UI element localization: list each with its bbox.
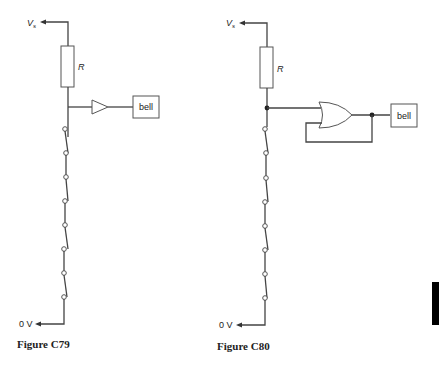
figure-c79: Vs R bell: [17, 18, 159, 350]
switch-contact: [63, 223, 68, 228]
switch-contact: [62, 271, 67, 276]
supply-label: Vs: [27, 18, 36, 29]
resistor: [61, 46, 74, 87]
switch-contact: [63, 127, 68, 132]
figure-c80: Vs R bell: [217, 18, 417, 352]
ground-arrow-icon: [236, 323, 242, 328]
figure-caption: Figure C79: [17, 338, 70, 350]
bell-label: bell: [139, 102, 153, 112]
switch-blade: [266, 180, 268, 202]
switch-contact: [64, 175, 69, 180]
switch-blade: [64, 275, 67, 297]
buffer-gate-icon: [92, 100, 108, 114]
ground-arrow-icon: [35, 322, 41, 327]
switch-blade: [265, 228, 268, 250]
switch-contact: [63, 199, 68, 204]
switch-chain: [263, 127, 269, 301]
switch-contact: [263, 224, 268, 229]
ground-wire: [38, 299, 64, 324]
switch-contact: [263, 200, 268, 205]
diagram-canvas: Vs R bell: [0, 0, 439, 367]
switch-contact: [62, 247, 67, 252]
resistor: [260, 47, 273, 88]
supply-label: Vs: [226, 18, 235, 29]
supply-wire: [43, 22, 68, 46]
resistor-label: R: [277, 64, 284, 74]
switch-blade: [265, 276, 267, 298]
switch-blade: [265, 131, 268, 153]
switch-blade: [65, 227, 68, 249]
switch-contact: [263, 248, 268, 253]
ground-wire: [239, 300, 265, 325]
switch-contact: [62, 295, 67, 300]
supply-wire: [242, 23, 267, 47]
switch-contact: [264, 176, 269, 181]
ground-label: 0 V: [219, 320, 233, 330]
figure-caption: Figure C80: [217, 340, 270, 352]
switch-contact: [263, 127, 268, 132]
supply-arrow-icon: [40, 20, 46, 25]
switch-chain: [62, 127, 69, 300]
switch-contact: [264, 151, 269, 156]
ground-label: 0 V: [19, 319, 33, 329]
switch-contact: [263, 272, 268, 277]
switch-blade: [66, 179, 68, 201]
switch-contact: [263, 296, 268, 301]
page-edge-tab: [432, 282, 439, 325]
bell-label: bell: [397, 111, 411, 121]
resistor-label: R: [78, 62, 85, 72]
supply-arrow-icon: [239, 21, 245, 26]
or-gate-icon: [319, 102, 352, 128]
switch-contact: [64, 151, 69, 156]
